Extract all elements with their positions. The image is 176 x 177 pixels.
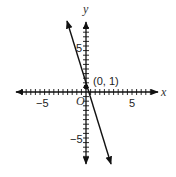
point-label: (0, 1) xyxy=(93,75,119,87)
x-tick-label-neg5: −5 xyxy=(36,97,49,109)
x-axis-label: x xyxy=(160,85,167,99)
y-tick-label-5: 5 xyxy=(76,42,82,54)
y-tick-label-neg5: −5 xyxy=(70,133,83,145)
origin-label: O xyxy=(76,94,85,108)
y-axis-label: y xyxy=(82,2,89,16)
point-0-1 xyxy=(84,85,89,90)
x-tick-label-5: 5 xyxy=(129,97,135,109)
coordinate-plane: y x O −5 5 5 −5 (0, 1) xyxy=(0,0,176,177)
